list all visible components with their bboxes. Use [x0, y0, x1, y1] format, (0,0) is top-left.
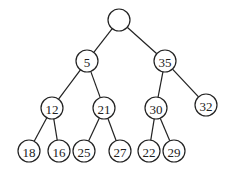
tree-node-35: 35 [154, 50, 176, 72]
tree-node-32: 32 [195, 94, 217, 116]
node-label: 32 [200, 99, 213, 114]
tree-edge [94, 29, 112, 53]
tree-edge [54, 119, 57, 140]
node-label: 22 [143, 145, 156, 160]
node-label: 5 [84, 55, 91, 70]
tree-node-29: 29 [163, 140, 185, 162]
tree-node-25: 25 [73, 140, 95, 162]
tree-node-5: 5 [76, 50, 98, 72]
node-label: 16 [53, 145, 67, 160]
tree-edge [160, 118, 170, 141]
node-label: 30 [150, 102, 163, 117]
tree-node-30: 30 [145, 97, 167, 119]
node-label: 27 [114, 145, 128, 160]
tree-node-12: 12 [41, 97, 63, 119]
tree-edge [89, 118, 100, 141]
binary-tree-diagram: 53512213032181625272229 [0, 0, 233, 173]
tree-edges [34, 27, 198, 141]
node-label: 18 [23, 145, 36, 160]
node-label: 35 [159, 55, 172, 70]
tree-edge [172, 69, 198, 97]
tree-edge [158, 72, 163, 97]
node-label: 12 [46, 102, 59, 117]
tree-node-22: 22 [138, 140, 160, 162]
tree-node-18: 18 [18, 140, 40, 162]
node-label: 29 [168, 145, 181, 160]
tree-node-27: 27 [109, 140, 131, 162]
tree-edge [108, 118, 116, 140]
node-label: 25 [78, 145, 91, 160]
tree-node-16: 16 [48, 140, 70, 162]
tree-edge [34, 118, 47, 142]
tree-edge [91, 71, 101, 97]
node-circle [108, 9, 130, 31]
tree-edge [151, 119, 154, 140]
tree-edge [59, 70, 81, 99]
node-label: 21 [98, 102, 111, 117]
tree-node-root-empty [108, 9, 130, 31]
tree-node-21: 21 [93, 97, 115, 119]
tree-edge [127, 27, 157, 53]
